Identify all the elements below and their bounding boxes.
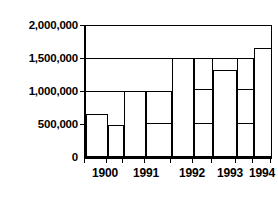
x-tick bbox=[252, 157, 253, 163]
bar-1994-a bbox=[254, 48, 272, 157]
bar-1993-b bbox=[237, 58, 254, 157]
bar-1900-a bbox=[86, 114, 108, 157]
x-axis-labels: 1900 1991 1992 1993 1994 bbox=[0, 166, 278, 190]
bar-segment-line bbox=[237, 89, 255, 90]
y-axis-label-1000000: 1,000,000 bbox=[29, 85, 78, 97]
x-tick bbox=[192, 157, 193, 163]
y-axis-label-500000: 500,000 bbox=[38, 118, 78, 130]
x-axis-ticks bbox=[84, 157, 270, 163]
y-axis-label-2000000: 2,000,000 bbox=[29, 19, 78, 31]
x-tick bbox=[235, 157, 236, 163]
x-axis-label-1994: 1994 bbox=[249, 166, 275, 180]
bar-group bbox=[86, 25, 272, 157]
x-axis-label-1991: 1991 bbox=[133, 166, 159, 180]
x-tick bbox=[170, 157, 171, 163]
x-axis-label-1992: 1992 bbox=[179, 166, 205, 180]
x-tick bbox=[211, 157, 212, 163]
x-tick bbox=[84, 157, 85, 163]
bar-segment-line bbox=[194, 123, 214, 124]
x-axis-label-1993: 1993 bbox=[217, 166, 243, 180]
bar-1993-a bbox=[213, 70, 237, 157]
y-axis-label-1500000: 1,500,000 bbox=[29, 52, 78, 64]
plot-area bbox=[84, 25, 272, 159]
x-tick bbox=[106, 157, 107, 163]
bar-1992-b bbox=[194, 58, 213, 157]
x-axis-label-1900: 1900 bbox=[92, 166, 118, 180]
x-tick bbox=[122, 157, 123, 163]
bar-chart: 2,000,000 1,500,000 1,000,000 500,000 0 bbox=[0, 0, 278, 200]
bar-1991-a bbox=[124, 91, 146, 157]
bar-1991-b bbox=[146, 91, 172, 157]
y-axis-label-0: 0 bbox=[72, 151, 78, 163]
x-tick bbox=[270, 157, 271, 163]
bar-segment-line bbox=[237, 123, 255, 124]
bar-1992-a bbox=[172, 58, 194, 157]
bar-segment-line bbox=[146, 123, 173, 124]
bar-segment-line bbox=[194, 89, 214, 90]
bar-1900-b bbox=[108, 125, 124, 157]
x-tick bbox=[144, 157, 145, 163]
